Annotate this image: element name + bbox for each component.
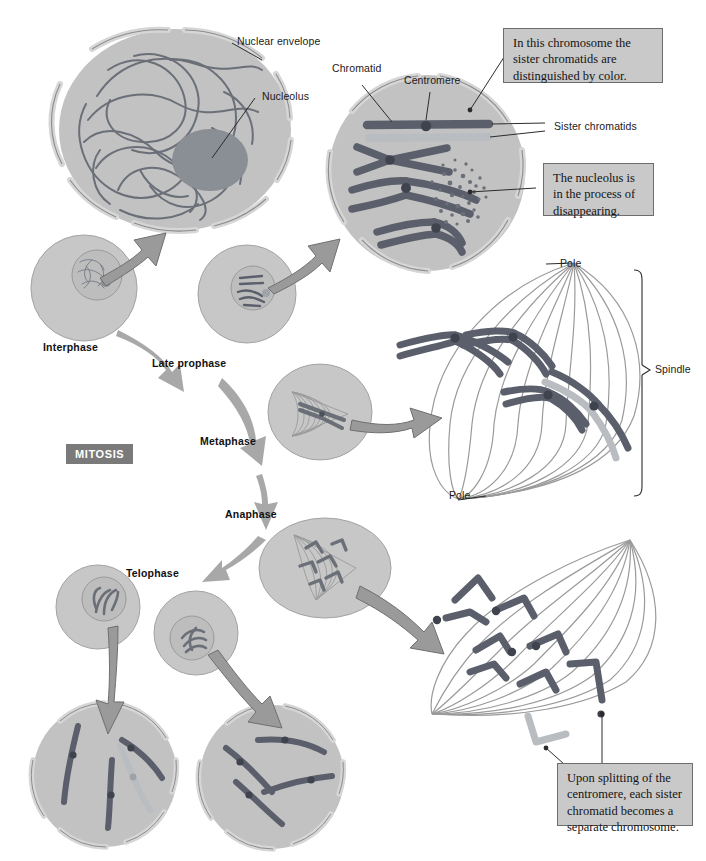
label-chromatid: Chromatid bbox=[332, 62, 381, 74]
label-centromere: Centromere bbox=[404, 74, 460, 86]
spindle-anaphase-large bbox=[431, 540, 656, 780]
label-nuclear-envelope: Nuclear envelope bbox=[237, 35, 320, 47]
cell-interphase-large bbox=[51, 29, 291, 231]
callout-nucleolus-disappearing: The nucleolus is in the process of disap… bbox=[543, 163, 654, 216]
cell-interphase-small bbox=[31, 235, 137, 341]
phase-label-interphase: Interphase bbox=[43, 341, 98, 353]
label-pole-top: Pole bbox=[560, 257, 581, 269]
label-nucleolus: Nucleolus bbox=[262, 90, 309, 102]
label-sister-chromatids: Sister chromatids bbox=[554, 120, 637, 132]
anaphase-light-chromatid bbox=[528, 716, 566, 742]
callout-chromatid-color: In this chromosome the sister chromatids… bbox=[503, 28, 663, 83]
callout-centromere-splitting: Upon splitting of the centromere, each s… bbox=[557, 763, 693, 826]
mitosis-figure: Nuclear envelope Nucleolus Chromatid Cen… bbox=[0, 0, 706, 861]
mitosis-badge: MITOSIS bbox=[66, 444, 133, 464]
spindle-bracket bbox=[634, 270, 650, 496]
cell-metaphase-small bbox=[268, 364, 372, 460]
label-spindle: Spindle bbox=[655, 363, 691, 375]
nucleolus-shape bbox=[172, 129, 248, 191]
phase-label-anaphase: Anaphase bbox=[225, 508, 277, 520]
spindle-metaphase-large bbox=[400, 263, 650, 500]
cell-late-prophase-small bbox=[198, 245, 296, 343]
phase-label-metaphase: Metaphase bbox=[200, 435, 256, 447]
cell-daughter-right bbox=[198, 705, 344, 849]
cell-late-prophase-large bbox=[328, 54, 545, 271]
anaphase-chromosomes bbox=[446, 578, 602, 700]
phase-label-telophase: Telophase bbox=[126, 567, 179, 579]
label-pole-bottom: Pole bbox=[449, 489, 470, 501]
phase-label-late-prophase: Late prophase bbox=[152, 357, 226, 369]
